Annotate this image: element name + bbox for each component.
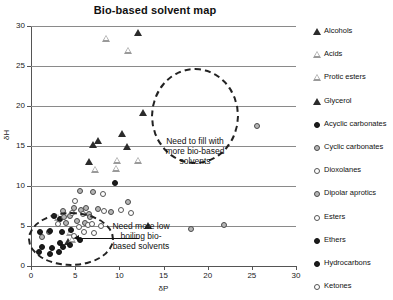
legend-marker	[312, 97, 324, 107]
circle-gray-marker-icon	[108, 209, 114, 215]
circle-filled-marker-icon	[112, 180, 118, 186]
legend-label: Hydrocarbons	[324, 258, 371, 268]
annotation-fill-gap: Need to fill with more bio-based solvent…	[152, 136, 238, 166]
legend-label: Ethers	[324, 235, 346, 245]
annotation-low-boiling-line1: Need more low	[97, 221, 185, 231]
y-tick-label: 15	[3, 142, 25, 150]
circle-open-marker-icon	[314, 284, 320, 290]
legend-marker	[312, 213, 324, 223]
legend-label: Ketones	[324, 281, 352, 291]
triangle-inner	[136, 158, 140, 162]
circle-gray-marker-icon	[90, 189, 96, 195]
legend-label: Esters	[324, 212, 345, 222]
legend-label: Acyclic carbonates	[324, 119, 387, 129]
x-tick	[252, 266, 253, 270]
x-tick	[31, 266, 32, 270]
y-tick-label: 20	[3, 102, 25, 110]
triangle-filled-marker-icon	[139, 109, 147, 116]
circle-gray-marker-icon	[188, 226, 194, 232]
y-tick-label: 5	[3, 222, 25, 230]
y-tick	[27, 186, 31, 187]
circle-gray-marker-icon	[221, 222, 227, 228]
x-tick	[119, 266, 120, 270]
annotation-low-boiling: Need more low boiling bio- based solvent…	[97, 221, 185, 251]
annotation-fill-gap-line2: more bio-based	[152, 146, 238, 156]
legend-label: Glycerol	[324, 96, 352, 106]
circle-gray-marker-icon	[95, 206, 101, 212]
gridline	[31, 26, 296, 27]
annotation-arrow-head	[74, 235, 79, 241]
x-axis-label: δP	[31, 284, 296, 293]
triangle-open-marker-icon	[112, 165, 120, 172]
triangle-inner	[115, 158, 119, 162]
x-tick	[164, 266, 165, 270]
x-tick	[208, 266, 209, 270]
triangle-filled-marker-icon	[85, 158, 93, 165]
legend-item-esters[interactable]: Esters	[312, 212, 393, 235]
legend-item-glycerol[interactable]: Glycerol	[312, 96, 393, 119]
y-tick	[27, 146, 31, 147]
triangle-inner	[104, 36, 108, 40]
gridline	[31, 186, 296, 187]
triangle-open-marker-icon	[102, 35, 110, 42]
legend-item-dipolar-aprotics[interactable]: Dipolar aprotics	[312, 188, 393, 211]
triangle-filled-marker-icon	[94, 137, 102, 144]
circle-gray-marker-icon	[125, 199, 131, 205]
legend-marker	[312, 259, 324, 269]
y-tick	[27, 66, 31, 67]
triangle-open-marker-icon	[134, 157, 142, 164]
triangle-filled-marker-icon	[123, 143, 131, 150]
legend-item-dioxolanes[interactable]: Dioxolanes	[312, 165, 393, 188]
legend-label: Alcohols	[324, 26, 352, 36]
y-axis-label: δH	[2, 130, 11, 140]
legend-marker	[312, 282, 324, 292]
legend-item-ethers[interactable]: Ethers	[312, 235, 393, 258]
y-tick-label: 0	[3, 262, 25, 270]
circle-gray-marker-icon	[254, 123, 260, 129]
legend-marker	[312, 143, 324, 153]
legend-item-protic-esters[interactable]: Protic esters	[312, 72, 393, 95]
legend-item-alcohols[interactable]: Alcohols	[312, 26, 393, 49]
annotation-low-boiling-line3: based solvents	[97, 241, 185, 251]
x-tick-label: 30	[284, 271, 308, 280]
triangle-filled-marker-icon	[313, 98, 321, 105]
circle-gray-marker-icon	[77, 188, 83, 194]
circle-open-marker-icon	[100, 191, 106, 197]
triangle-inner	[315, 52, 319, 56]
legend-label: Dipolar aprotics	[324, 188, 376, 198]
circle-open-marker-icon	[314, 215, 320, 221]
legend-item-cyclic-carbonates[interactable]: Cyclic carbonates	[312, 142, 393, 165]
legend-marker	[312, 189, 324, 199]
legend-label: Acids	[324, 49, 342, 59]
legend-item-acyclic-carbonates[interactable]: Acyclic carbonates	[312, 119, 393, 142]
triangle-open-marker-icon	[124, 47, 132, 54]
annotation-fill-gap-line1: Need to fill with	[152, 136, 238, 146]
triangle-filled-marker-icon	[118, 130, 126, 137]
annotation-fill-gap-line3: solvents	[152, 156, 238, 166]
y-tick-label: 25	[3, 62, 25, 70]
triangle-open-marker-icon	[91, 166, 99, 173]
x-tick-label: 20	[196, 271, 220, 280]
circle-open-marker-icon	[118, 207, 124, 213]
x-tick-label: 15	[152, 271, 176, 280]
legend-label: Protic esters	[324, 72, 366, 82]
legend-marker	[312, 50, 324, 60]
circle-filled-marker-icon	[314, 261, 320, 267]
legend-item-hydrocarbons[interactable]: Hydrocarbons	[312, 258, 393, 281]
y-tick-label: 30	[3, 22, 25, 30]
gridline	[31, 66, 296, 67]
legend-marker	[312, 73, 324, 83]
triangle-open-marker-icon	[113, 157, 121, 164]
triangle-inner	[114, 166, 118, 170]
x-tick-label: 0	[19, 271, 43, 280]
legend-marker	[312, 166, 324, 176]
x-tick-label: 5	[63, 271, 87, 280]
legend: AlcoholsAcidsProtic estersGlycerolAcycli…	[312, 26, 393, 300]
legend-label: Dioxolanes	[324, 165, 361, 175]
circle-filled-marker-icon	[314, 122, 320, 128]
legend-item-acids[interactable]: Acids	[312, 49, 393, 72]
legend-item-ketones[interactable]: Ketones	[312, 281, 393, 300]
circle-gray-marker-icon	[314, 191, 320, 197]
triangle-inner	[315, 75, 319, 79]
y-tick	[27, 226, 31, 227]
